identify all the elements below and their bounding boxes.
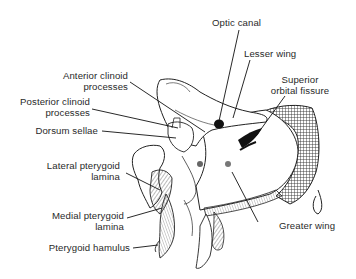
label-line-1: Medial pterygoid [34,211,124,222]
label-line-1: Superior [258,75,342,86]
label-superior-orbital-fissure: Superior orbital fissure [258,75,342,96]
sphenoid-bone-illustration [0,0,356,279]
label-line-2: lamina [34,222,124,233]
label-optic-canal: Optic canal [212,18,261,29]
label-line-2: orbital fissure [258,86,342,97]
label-line-2: processes [4,108,90,119]
label-line-2: processes [40,82,128,93]
label-anterior-clinoid-processes: Anterior clinoid processes [40,71,128,92]
label-line-1: Lateral pterygoid [30,161,120,172]
label-greater-wing: Greater wing [279,221,335,232]
label-posterior-clinoid-processes: Posterior clinoid processes [4,97,90,118]
label-lateral-pterygoid-lamina: Lateral pterygoid lamina [30,161,120,182]
label-pterygoid-hamulus: Pterygoid hamulus [30,243,130,254]
label-line-1: Anterior clinoid [40,71,128,82]
label-line-1: Posterior clinoid [4,97,90,108]
label-dorsum-sellae: Dorsum sellae [20,126,98,137]
label-medial-pterygoid-lamina: Medial pterygoid lamina [34,211,124,232]
label-line-2: lamina [30,172,120,183]
label-lesser-wing: Lesser wing [244,49,296,60]
